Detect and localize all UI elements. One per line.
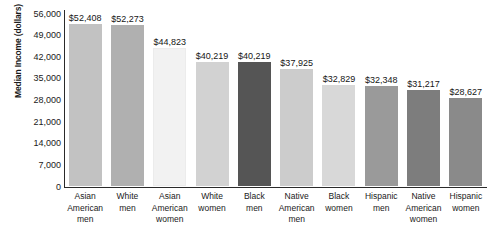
bar[interactable] bbox=[449, 98, 482, 186]
bar-slot: $37,925 bbox=[276, 0, 318, 187]
x-axis-line bbox=[64, 187, 487, 188]
x-axis-label-line: men bbox=[273, 214, 321, 226]
x-axis-label-line: Black bbox=[315, 191, 363, 203]
x-axis-label-line: American bbox=[146, 203, 194, 215]
x-axis-label-line: American bbox=[399, 203, 447, 215]
x-axis-label-line: men bbox=[61, 214, 109, 226]
bar[interactable] bbox=[153, 48, 186, 186]
y-axis-tick-label: 0 bbox=[0, 183, 61, 192]
bar-slot: $31,217 bbox=[402, 0, 444, 187]
x-axis-label-line: women bbox=[315, 203, 363, 215]
bar-slot: $40,219 bbox=[233, 0, 275, 187]
bar[interactable] bbox=[238, 62, 271, 186]
x-axis-label-line: Asian bbox=[61, 191, 109, 203]
x-axis-label-line: Black bbox=[230, 191, 278, 203]
y-axis-tick-label: 28,000 bbox=[0, 96, 61, 105]
x-axis-category-label: AsianAmericanwomen bbox=[146, 191, 194, 226]
x-axis-label-line: women bbox=[146, 214, 194, 226]
x-axis-label-line: women bbox=[188, 203, 236, 215]
x-axis-category-label: Blackwomen bbox=[315, 191, 363, 214]
x-axis-label-line: Native bbox=[273, 191, 321, 203]
x-axis-category-label: Whitewomen bbox=[188, 191, 236, 214]
bar-slot: $32,348 bbox=[360, 0, 402, 187]
bar[interactable] bbox=[407, 90, 440, 186]
y-axis-tick-label: 42,000 bbox=[0, 53, 61, 62]
bar[interactable] bbox=[322, 85, 355, 186]
x-axis-label-line: Native bbox=[399, 191, 447, 203]
x-axis-label-line: men bbox=[230, 203, 278, 215]
x-axis-label-line: American bbox=[273, 203, 321, 215]
x-axis-label-line: Hispanic bbox=[442, 191, 487, 203]
bar-slot: $28,627 bbox=[445, 0, 487, 187]
bar-value-label: $52,273 bbox=[111, 14, 144, 24]
bar[interactable] bbox=[111, 25, 144, 186]
bar-value-label: $52,408 bbox=[69, 13, 102, 23]
y-axis-tick-label: 21,000 bbox=[0, 118, 61, 127]
bar-slot: $52,273 bbox=[106, 0, 148, 187]
bar-slot: $32,829 bbox=[318, 0, 360, 187]
bar[interactable] bbox=[280, 69, 313, 186]
y-axis-tick-label: 56,000 bbox=[0, 10, 61, 19]
y-axis-tick-label: 7,000 bbox=[0, 161, 61, 170]
bar-slot: $52,408 bbox=[64, 0, 106, 187]
bar-slot: $40,219 bbox=[191, 0, 233, 187]
bar-value-label: $40,219 bbox=[196, 51, 229, 61]
x-axis-category-label: Whitemen bbox=[103, 191, 151, 214]
bar[interactable] bbox=[365, 86, 398, 186]
x-axis-category-label: NativeAmericanwomen bbox=[399, 191, 447, 226]
x-axis-label-line: women bbox=[442, 203, 487, 215]
x-axis-category-label: Blackmen bbox=[230, 191, 278, 214]
x-axis-label-line: women bbox=[399, 214, 447, 226]
x-axis-category-label: Hispanicmen bbox=[357, 191, 405, 214]
y-axis-tick-label: 49,000 bbox=[0, 31, 61, 40]
bar[interactable] bbox=[196, 62, 229, 186]
y-axis-tick-labels: 07,00014,00021,00028,00035,00042,00049,0… bbox=[0, 0, 61, 240]
plot-area: $52,408$52,273$44,823$40,219$40,219$37,9… bbox=[64, 0, 487, 188]
bar-value-label: $32,348 bbox=[365, 75, 398, 85]
bar-value-label: $31,217 bbox=[407, 79, 440, 89]
x-axis-label-line: Hispanic bbox=[357, 191, 405, 203]
x-axis-label-line: White bbox=[103, 191, 151, 203]
bar-value-label: $40,219 bbox=[238, 51, 271, 61]
x-axis-label-line: American bbox=[61, 203, 109, 215]
bar-slot: $44,823 bbox=[149, 0, 191, 187]
x-axis-category-label: NativeAmericanmen bbox=[273, 191, 321, 226]
x-axis-category-label: Hispanicwomen bbox=[442, 191, 487, 214]
bar-chart: Median Income (dollars) 07,00014,00021,0… bbox=[0, 0, 487, 240]
x-axis-label-line: men bbox=[357, 203, 405, 215]
x-axis-label-line: Asian bbox=[146, 191, 194, 203]
bar[interactable] bbox=[69, 24, 102, 186]
x-axis-label-line: men bbox=[103, 203, 151, 215]
bar-value-label: $28,627 bbox=[450, 87, 483, 97]
y-axis-tick-label: 14,000 bbox=[0, 139, 61, 148]
y-axis-tick-label: 35,000 bbox=[0, 74, 61, 83]
x-axis-category-label: AsianAmericanmen bbox=[61, 191, 109, 226]
x-axis-label-line: White bbox=[188, 191, 236, 203]
bar-value-label: $37,925 bbox=[280, 58, 313, 68]
x-axis-category-labels: AsianAmericanmenWhitemenAsianAmericanwom… bbox=[64, 191, 487, 240]
bar-value-label: $32,829 bbox=[323, 74, 356, 84]
bar-value-label: $44,823 bbox=[153, 37, 186, 47]
